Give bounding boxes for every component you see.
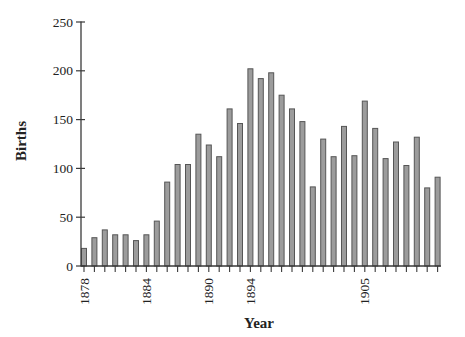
births-bar-chart: 05010015020025018781884189018941905 Birt… bbox=[0, 0, 465, 337]
bar-1888 bbox=[186, 165, 191, 267]
bar-1908 bbox=[394, 142, 399, 266]
bar-1904 bbox=[352, 156, 357, 266]
bar-1899 bbox=[300, 122, 305, 266]
bar-1897 bbox=[279, 95, 284, 266]
bar-1910 bbox=[414, 137, 419, 266]
bar-1906 bbox=[373, 128, 378, 266]
bar-1911 bbox=[425, 188, 430, 266]
bar-1889 bbox=[196, 134, 201, 266]
bar-1902 bbox=[331, 157, 336, 266]
x-tick-label: 1878 bbox=[77, 278, 92, 305]
bar-1882 bbox=[123, 235, 128, 266]
bar-1891 bbox=[217, 157, 222, 266]
y-axis-title: Births bbox=[13, 121, 29, 161]
y-tick-label: 100 bbox=[53, 161, 74, 176]
bar-1895 bbox=[258, 79, 263, 266]
bar-1890 bbox=[206, 145, 211, 266]
x-tick-label: 1890 bbox=[201, 278, 216, 305]
bar-1901 bbox=[321, 139, 326, 266]
births-by-year-figure: 05010015020025018781884189018941905 Birt… bbox=[0, 0, 465, 337]
bar-1912 bbox=[435, 177, 440, 266]
bar-1879 bbox=[92, 238, 97, 266]
bar-1898 bbox=[290, 109, 295, 266]
bar-1886 bbox=[165, 182, 170, 266]
y-tick-label: 0 bbox=[66, 259, 73, 274]
x-tick-label: 1905 bbox=[357, 278, 372, 305]
bar-1909 bbox=[404, 166, 409, 267]
bar-1887 bbox=[175, 165, 180, 267]
bar-1881 bbox=[113, 235, 118, 266]
bar-1905 bbox=[362, 101, 367, 266]
bar-1892 bbox=[227, 109, 232, 266]
x-axis-title: Year bbox=[244, 315, 274, 331]
bar-1903 bbox=[342, 126, 347, 266]
bar-1900 bbox=[310, 187, 315, 266]
y-tick-label: 150 bbox=[53, 112, 74, 127]
x-tick-label: 1884 bbox=[139, 278, 154, 305]
y-tick-label: 200 bbox=[53, 63, 74, 78]
bar-1880 bbox=[102, 230, 107, 266]
bar-1885 bbox=[154, 221, 159, 266]
bar-1907 bbox=[383, 159, 388, 266]
x-tick-label: 1894 bbox=[243, 278, 258, 305]
bar-1883 bbox=[134, 241, 139, 266]
bar-1894 bbox=[248, 69, 253, 266]
bars-layer bbox=[82, 69, 441, 266]
bar-1884 bbox=[144, 235, 149, 266]
bar-1896 bbox=[269, 73, 274, 266]
bar-1893 bbox=[238, 124, 243, 267]
bar-1878 bbox=[82, 248, 87, 266]
y-tick-label: 250 bbox=[53, 15, 74, 30]
y-tick-label: 50 bbox=[60, 210, 74, 225]
